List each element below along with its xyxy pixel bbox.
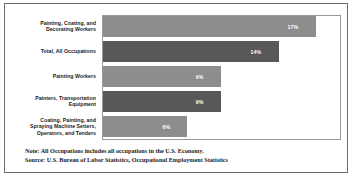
category-label: Painters, Transportation Equipment — [12, 95, 96, 108]
bar-track: 9% — [103, 66, 341, 87]
chart-figure: Painting, Coating, and Decorating Worker… — [4, 3, 348, 173]
chart-row: Painting, Coating, and Decorating Worker… — [12, 16, 341, 37]
bar-track: 14% — [103, 41, 341, 62]
bar-value-label: 14% — [251, 49, 262, 55]
bar-value-label: 9% — [196, 99, 204, 105]
category-label: Coating, Painting, and Spraying Machine … — [12, 117, 96, 136]
footnote-note: Note: All Occupations includes all occup… — [25, 146, 228, 155]
category-label: Total, All Occupations — [12, 48, 96, 54]
category-label: Painting, Coating, and Decorating Worker… — [12, 20, 96, 33]
bar[interactable] — [103, 16, 316, 37]
bar-value-label: 9% — [196, 74, 204, 80]
bar-track: 17% — [103, 16, 341, 37]
chart-row: Total, All Occupations 14% — [12, 41, 341, 62]
category-label-line: Operators, and Tenders — [12, 130, 96, 136]
chart-row: Painting Workers 9% — [12, 66, 341, 87]
category-label-line: Decorating Workers — [12, 26, 96, 32]
footnote-source: Source: U.S. Bureau of Labor Statistics,… — [25, 155, 228, 164]
bar-track: 9% — [103, 91, 341, 112]
category-label-line: Painting Workers — [12, 73, 96, 79]
bar-track: 6% — [103, 116, 341, 137]
bar-chart: Painting, Coating, and Decorating Worker… — [12, 11, 341, 138]
chart-row: Painters, Transportation Equipment 9% — [12, 91, 341, 112]
category-label-line: Equipment — [12, 101, 96, 107]
category-label: Painting Workers — [12, 73, 96, 79]
bar-value-label: 17% — [287, 24, 298, 30]
chart-row: Coating, Painting, and Spraying Machine … — [12, 116, 341, 137]
bar[interactable] — [103, 116, 187, 137]
footnotes: Note: All Occupations includes all occup… — [25, 146, 228, 165]
bar-value-label: 6% — [163, 124, 171, 130]
category-label-line: Total, All Occupations — [12, 48, 96, 54]
